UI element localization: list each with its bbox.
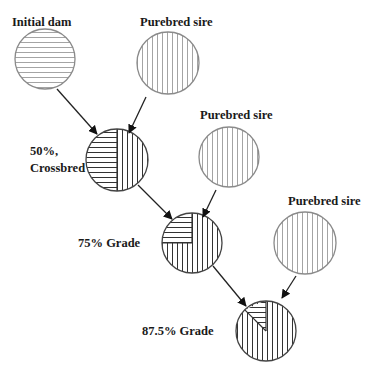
crossbred-sire-half	[117, 129, 148, 191]
label-grade-875: 87.5% Grade	[142, 324, 214, 338]
label-sire-2: Purebred sire	[200, 108, 273, 122]
label-initial-dam: Initial dam	[12, 15, 72, 29]
label-crossbred-percent: 50%,	[30, 144, 58, 158]
label-crossbred-name: Crossbred	[30, 161, 85, 175]
node-initial-dam: Initial dam	[12, 15, 75, 89]
arrow-sire1-to-crossbred	[129, 97, 146, 133]
label-sire-1: Purebred sire	[140, 15, 213, 29]
node-crossbred: 50%, Crossbred	[30, 129, 148, 191]
breeding-diagram: Initial dam Purebred sire 50%, Crossbred…	[0, 0, 375, 375]
crossbred-dam-half	[86, 129, 117, 191]
arrow-sire3-to-grade875	[282, 276, 296, 298]
arrow-grade75-to-grade875	[213, 266, 246, 306]
node-grade-875: 87.5% Grade	[142, 300, 297, 362]
arrow-crossbred-to-grade75	[138, 185, 172, 219]
arrow-dam-to-crossbred	[57, 89, 97, 134]
node-sire-3: Purebred sire	[274, 194, 361, 274]
node-grade-75: 75% Grade	[78, 212, 223, 274]
node-sire-1: Purebred sire	[137, 15, 213, 94]
arrow-sire2-to-grade75	[203, 190, 216, 217]
label-grade-75: 75% Grade	[78, 236, 141, 250]
label-sire-3: Purebred sire	[288, 194, 361, 208]
node-sire-2: Purebred sire	[199, 108, 273, 187]
